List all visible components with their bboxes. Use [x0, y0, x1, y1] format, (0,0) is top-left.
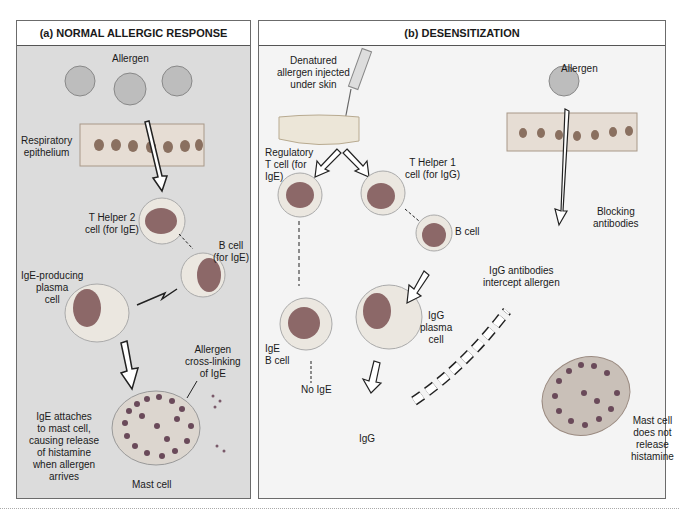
label-mast-b-4: histamine	[631, 451, 674, 462]
label-blocking-2: antibodies	[593, 218, 639, 229]
allergen-icon	[65, 66, 192, 105]
label-ige-b-1: IgE	[265, 343, 280, 354]
label-mast-b-1: Mast cell	[633, 415, 672, 426]
arrow-icon	[315, 149, 341, 177]
label-b-cell-b: B cell	[455, 226, 479, 238]
label-ige-4: of histamine	[37, 447, 91, 458]
label-ige-1: IgE attaches	[36, 411, 92, 422]
label-th1-1: T Helper 1	[409, 157, 456, 168]
label-b-cell-sub: (for IgE)	[213, 252, 249, 263]
label-injection-3: under skin	[290, 79, 336, 90]
arrow-icon	[363, 361, 381, 393]
label-ige-b-2: B cell	[265, 355, 289, 366]
label-igg-plasma-2: plasma	[420, 322, 452, 333]
label-injection-1: Denatured	[290, 55, 337, 66]
label-ige-5: when allergen	[33, 459, 95, 470]
label-intercept-2: intercept allergen	[483, 277, 560, 288]
label-ige-6: arrives	[49, 471, 79, 482]
label-reg-t-1: Regulatory	[265, 147, 313, 158]
label-mast-b-2: does not	[633, 427, 671, 438]
label-ige-2: to mast cell,	[37, 423, 90, 434]
label-plasma-3: cell	[45, 294, 60, 305]
label-igg-plasma-1: IgG	[428, 310, 444, 321]
label-ige-3: causing release	[29, 435, 99, 446]
label-igg-plasma-3: cell	[429, 334, 444, 345]
respiratory-epithelium-icon	[80, 124, 204, 166]
label-epithelium: epithelium	[24, 147, 70, 158]
arrow-icon	[121, 341, 138, 389]
divider	[0, 508, 679, 509]
label-mast-b-3: release	[636, 439, 669, 450]
label-mast-cell: Mast cell	[132, 479, 171, 491]
panel-normal-allergic-response: (a) NORMAL ALLERGIC RESPONSE	[16, 20, 251, 499]
label-no-ige: No IgE	[301, 384, 332, 396]
label-allergen: Allergen	[112, 53, 149, 65]
label-cross-3: of IgE	[200, 368, 226, 379]
label-plasma-2: plasma	[36, 282, 68, 293]
arrow-icon	[407, 271, 429, 303]
label-injection-2: allergen injected	[277, 67, 350, 78]
label-t-helper-2: T Helper 2	[89, 212, 136, 223]
label-th1-2: cell (for IgG)	[405, 169, 460, 180]
arrow-icon	[343, 149, 369, 177]
label-respiratory: Respiratory	[21, 135, 72, 146]
label-allergen-b: Allergen	[561, 63, 598, 75]
label-igg: IgG	[359, 433, 375, 445]
label-reg-t-2: T cell (for	[265, 159, 307, 170]
label-t-helper-2-sub: cell (for IgE)	[85, 224, 139, 235]
panel-b-illustration	[259, 21, 667, 500]
label-reg-t-3: IgE)	[265, 171, 283, 182]
skin-icon	[279, 115, 359, 145]
label-plasma-1: IgE-producing	[21, 270, 83, 281]
label-blocking-1: Blocking	[597, 206, 635, 217]
label-intercept-1: IgG antibodies	[489, 265, 554, 276]
label-b-cell: B cell	[219, 240, 243, 251]
panel-desensitization: (b) DESENSITIZATION	[258, 20, 666, 499]
label-cross-1: Allergen	[194, 344, 231, 355]
label-cross-2: cross-linking	[185, 356, 241, 367]
